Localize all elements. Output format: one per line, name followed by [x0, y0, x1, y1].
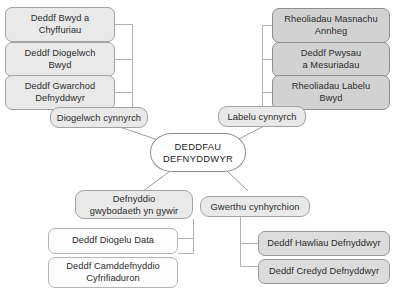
- node-rheoliadau-masnachu-annheg[interactable]: Rheoliadau Masnachu Annheg: [272, 8, 390, 43]
- central-node: DEDDFAU DEFNYDDWYR: [150, 133, 246, 172]
- hub-gwerthu-cynhyrchion[interactable]: Gwerthu cynhyrchion: [200, 196, 310, 217]
- node-deddf-credyd-defnyddwyr[interactable]: Deddf Credyd Defnyddwyr: [258, 259, 390, 284]
- mindmap-canvas: DEDDFAU DEFNYDDWYR Deddf Bwyd a Chyffuri…: [0, 0, 395, 292]
- node-deddf-camddefnyddio-cyfrifiaduron[interactable]: Deddf Camddefnyddio Cyfrifiaduron: [48, 257, 178, 288]
- hub-diogelwch-cynnyrch[interactable]: Diogelwch cynnyrch: [50, 107, 148, 128]
- hub-defnyddio-gwybodaeth[interactable]: Defnyddio gwybodaeth yn gywir: [75, 190, 193, 219]
- hub-labelu-cynnyrch[interactable]: Labelu cynnyrch: [218, 106, 306, 127]
- node-deddf-bwyd-a-chyffuriau[interactable]: Deddf Bwyd a Chyffuriau: [5, 7, 115, 42]
- node-rheoliadau-labelu-bwyd[interactable]: Rheoliadau Labelu Bwyd: [272, 75, 390, 110]
- node-deddf-diogelwch-bwyd[interactable]: Deddf Diogelwch Bwyd: [5, 42, 115, 77]
- node-deddf-hawliau-defnyddwyr[interactable]: Deddf Hawliau Defnyddwyr: [258, 231, 390, 256]
- node-deddf-diogelu-data[interactable]: Deddf Diogelu Data: [48, 228, 178, 254]
- node-deddf-gwarchod-defnyddwyr[interactable]: Deddf Gwarchod Defnyddwyr: [5, 75, 115, 110]
- node-deddf-pwysau-a-mesuriadau[interactable]: Deddf Pwysau a Mesuriadau: [272, 42, 390, 77]
